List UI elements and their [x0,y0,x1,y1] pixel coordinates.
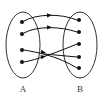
element-a3-dot [20,48,24,52]
arrowhead-a1-b1-icon [47,13,52,18]
element-b2-dot [77,30,81,34]
set-b-label: B [77,84,83,94]
edge-a4-b3 [24,44,77,62]
element-b4-dot [77,55,81,59]
element-b5-dot [77,66,81,70]
mapping-canvas: A B [0,0,103,100]
set-a-label: A [20,84,27,94]
arrowhead-a2-b2-icon [47,25,52,30]
element-a1-dot [20,20,24,24]
element-b1-dot [77,18,81,22]
edge-a2-b2 [24,28,77,33]
element-a4-dot [20,60,24,64]
edge-a3-b5 [24,50,77,68]
element-b3-dot [77,42,81,46]
set-mapping-diagram: A B [0,0,103,100]
element-a2-dot [20,32,24,36]
